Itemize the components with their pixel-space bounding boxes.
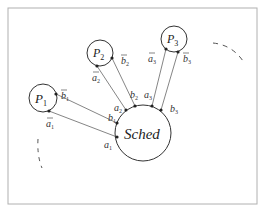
port-dot-p2-a2 [95, 64, 98, 67]
label-b2: b2 [130, 89, 138, 101]
port-dot-p1-a1 [47, 109, 50, 112]
label-bar-b3: b3 [183, 53, 191, 65]
port-dot-p1-b1 [54, 92, 57, 95]
port-dot-sched-b2 [133, 104, 136, 107]
port-dot-sched-a3 [150, 104, 153, 107]
scheduler-diagram: P1 P2 P3 Sched a1 b1 a2 b2 a3 b3 a1 b1 a… [0, 0, 263, 212]
label-b1: b1 [108, 112, 116, 124]
port-dot-sched-a2 [124, 108, 127, 111]
label-a2: a2 [114, 102, 122, 114]
label-bar-a3: a3 [148, 53, 156, 65]
channel-b3 [161, 52, 178, 110]
channel-a3 [152, 49, 166, 106]
label-bar-b2: b2 [121, 55, 129, 67]
label-bar-a2: a2 [92, 72, 100, 84]
label-bar-b1: b1 [61, 90, 69, 102]
channel-a1 [49, 111, 117, 137]
port-dot-p3-a3 [164, 47, 167, 50]
port-dot-p2-b2 [110, 56, 113, 59]
label-bar-a1: a1 [46, 118, 54, 130]
port-dot-sched-a1 [115, 135, 118, 138]
channel-a2 [97, 66, 126, 110]
scheduler-label: Sched [124, 126, 160, 142]
label-a3: a3 [144, 89, 152, 101]
label-b3: b3 [170, 103, 178, 115]
dashed-arc-left [38, 139, 42, 168]
port-dot-sched-b3 [159, 108, 162, 111]
port-dot-p3-b3 [176, 50, 179, 53]
dashed-arc-right [213, 43, 243, 61]
label-a1: a1 [104, 139, 112, 151]
